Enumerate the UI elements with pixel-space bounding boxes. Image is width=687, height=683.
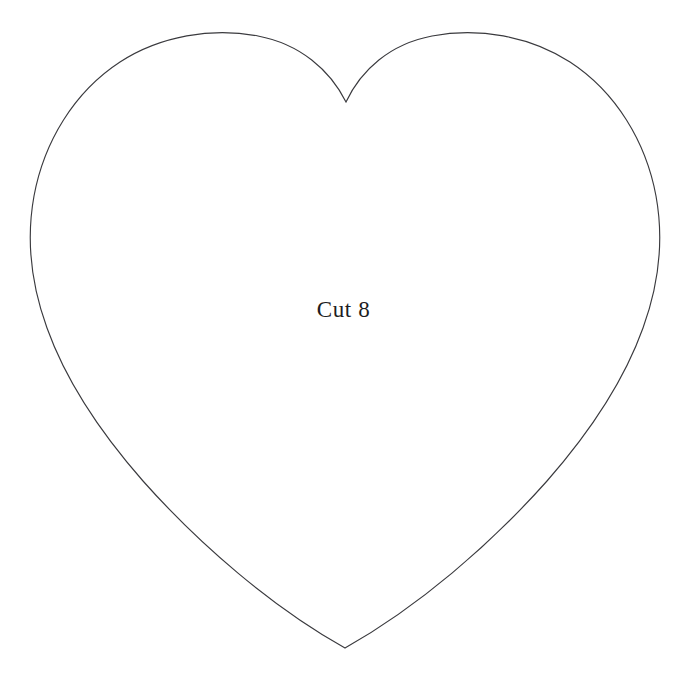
pattern-page: Cut 8 — [0, 0, 687, 683]
heart-shape-canvas — [0, 0, 687, 683]
